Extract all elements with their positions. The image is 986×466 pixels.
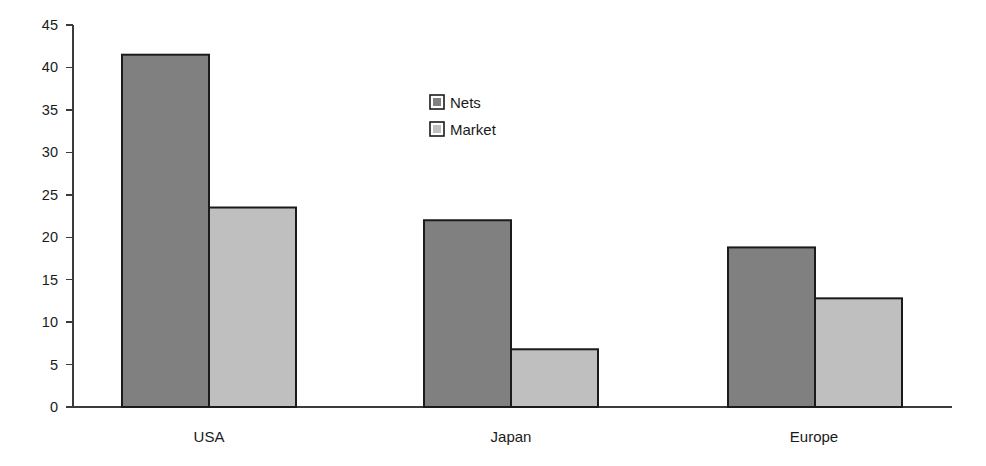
x-tick-label-japan: Japan [491, 428, 532, 445]
bars-layer [122, 55, 902, 407]
x-tick-label-europe: Europe [790, 428, 838, 445]
y-tick-label: 5 [50, 357, 58, 373]
y-tick-label: 20 [42, 229, 58, 245]
y-tick-label: 15 [42, 272, 58, 288]
y-tick-label: 30 [42, 144, 58, 160]
chart-canvas: 45 40 35 30 25 20 15 10 5 0 USA Japan Eu… [0, 0, 986, 466]
legend-entry-nets: Nets [430, 94, 481, 111]
y-tick-label: 45 [42, 17, 58, 33]
bar-usa-nets [122, 55, 209, 407]
y-axis-tick-labels: 45 40 35 30 25 20 15 10 5 0 [42, 17, 58, 415]
bar-chart: 45 40 35 30 25 20 15 10 5 0 USA Japan Eu… [0, 0, 986, 466]
legend-label-market: Market [450, 121, 497, 138]
bar-usa-market [209, 208, 296, 407]
y-tick-label: 35 [42, 102, 58, 118]
legend: Nets Market [430, 94, 497, 138]
bar-japan-market [511, 349, 598, 407]
legend-swatch-nets [433, 98, 441, 106]
legend-swatch-market [433, 125, 441, 133]
y-tick-label: 10 [42, 314, 58, 330]
y-tick-label: 40 [42, 59, 58, 75]
legend-label-nets: Nets [450, 94, 481, 111]
bar-europe-nets [728, 247, 815, 407]
y-tick-label: 25 [42, 187, 58, 203]
legend-entry-market: Market [430, 121, 497, 138]
plot-area: 45 40 35 30 25 20 15 10 5 0 USA Japan Eu… [0, 0, 986, 466]
x-axis-tick-labels: USA Japan Europe [194, 428, 839, 445]
bar-europe-market [815, 298, 902, 407]
y-axis-ticks [66, 25, 73, 407]
y-tick-label: 0 [50, 399, 58, 415]
x-tick-label-usa: USA [194, 428, 225, 445]
bar-japan-nets [424, 220, 511, 407]
